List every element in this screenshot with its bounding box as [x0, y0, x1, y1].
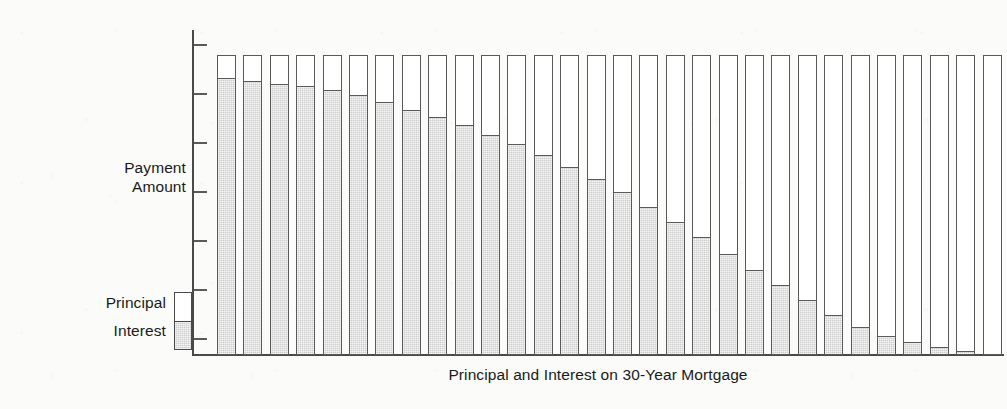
- bar-segment-interest: [904, 342, 921, 354]
- bar-year-29: [956, 55, 975, 355]
- bar-year-10: [455, 55, 474, 355]
- bar-segment-interest: [535, 155, 552, 355]
- bar-segment-interest: [878, 336, 895, 354]
- bar-year-6: [349, 55, 368, 355]
- bar-segment-interest: [403, 110, 420, 355]
- bar-segment-interest: [693, 237, 710, 354]
- legend-label-principal: Principal: [48, 294, 166, 312]
- bar-year-9: [428, 55, 447, 355]
- plot-area: [192, 30, 1004, 355]
- bar-segment-interest: [271, 84, 288, 354]
- legend-label-interest: Interest: [48, 322, 166, 340]
- bar-segment-interest: [244, 81, 261, 354]
- bar-year-8: [402, 55, 421, 355]
- bar-year-13: [534, 55, 553, 355]
- bar-year-30: [983, 55, 1002, 355]
- bar-segment-interest: [456, 125, 473, 355]
- bar-segment-interest: [640, 207, 657, 354]
- bar-year-23: [798, 55, 817, 355]
- legend-swatch-interest: [175, 321, 191, 349]
- bar-segment-interest: [772, 285, 789, 354]
- bar-year-1: [217, 55, 236, 355]
- bar-segment-interest: [852, 327, 869, 354]
- legend-swatch-principal: [175, 293, 191, 321]
- bar-year-4: [296, 55, 315, 355]
- bar-segment-interest: [324, 90, 341, 354]
- bar-segment-interest: [825, 315, 842, 354]
- y-axis-title: Payment Amount: [60, 158, 186, 196]
- bar-year-22: [771, 55, 790, 355]
- bar-segment-interest: [720, 254, 737, 355]
- bar-year-28: [930, 55, 949, 355]
- bar-year-3: [270, 55, 289, 355]
- bar-year-18: [666, 55, 685, 355]
- bar-year-5: [323, 55, 342, 355]
- bar-segment-interest: [508, 144, 525, 354]
- chart-legend: Principal Interest: [44, 294, 192, 356]
- bar-segment-interest: [297, 86, 314, 355]
- bar-segment-interest: [588, 179, 605, 355]
- bar-segment-interest: [614, 192, 631, 354]
- bar-year-21: [745, 55, 764, 355]
- bar-segment-interest: [799, 300, 816, 354]
- bar-segment-interest: [957, 351, 974, 354]
- bar-segment-interest: [350, 95, 367, 355]
- bar-segment-interest: [218, 78, 235, 354]
- bar-segment-interest: [931, 347, 948, 355]
- bar-year-17: [639, 55, 658, 355]
- chart-figure: Payment Amount Principal Interest Princi…: [0, 0, 1007, 409]
- bar-year-15: [587, 55, 606, 355]
- bar-year-7: [375, 55, 394, 355]
- bar-year-25: [851, 55, 870, 355]
- bar-segment-interest: [376, 102, 393, 354]
- bar-segment-interest: [561, 167, 578, 355]
- x-axis-title: Principal and Interest on 30-Year Mortga…: [192, 366, 1004, 384]
- bar-segment-interest: [429, 117, 446, 354]
- bar-segment-interest: [667, 222, 684, 354]
- bar-year-16: [613, 55, 632, 355]
- bar-segment-interest: [482, 135, 499, 354]
- bar-year-24: [824, 55, 843, 355]
- bar-year-19: [692, 55, 711, 355]
- legend-swatch: [174, 292, 192, 350]
- bar-year-12: [507, 55, 526, 355]
- bar-year-2: [243, 55, 262, 355]
- bar-segment-interest: [746, 270, 763, 354]
- bar-year-14: [560, 55, 579, 355]
- bar-year-20: [719, 55, 738, 355]
- bar-year-26: [877, 55, 896, 355]
- bar-year-11: [481, 55, 500, 355]
- bar-year-27: [903, 55, 922, 355]
